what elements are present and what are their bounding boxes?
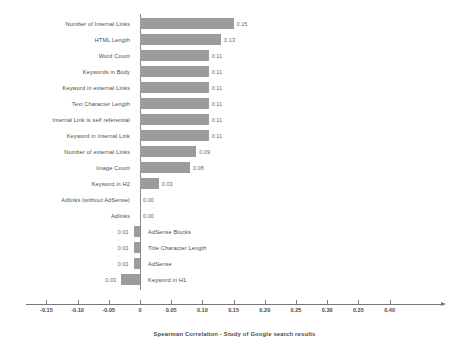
axis-tick-label: 0 <box>138 307 141 313</box>
bar-value-label: 0.03 <box>162 176 173 192</box>
bar-row: Keywords in Body0.11 <box>0 64 469 80</box>
bar <box>140 82 209 93</box>
bar <box>140 98 209 109</box>
bar-row: Keyword in H20.03 <box>0 176 469 192</box>
bar-value-label: 0.08 <box>193 160 204 176</box>
axis-tick-label: 0.30 <box>322 307 333 313</box>
category-label: Number of Internal Links <box>0 16 134 32</box>
bar <box>140 178 159 189</box>
bar-value-label: 0.13 <box>224 32 235 48</box>
x-axis-caption: Spearman Correlation - Study of Google s… <box>0 331 469 337</box>
bar-row: AdSense0.01 <box>0 256 469 272</box>
bar-row: Keyword in external Links0.11 <box>0 80 469 96</box>
bar <box>134 258 140 269</box>
axis-tick-label: -0.15 <box>40 307 53 313</box>
bar-row: Number of Internal Links0.15 <box>0 16 469 32</box>
bar-row: Text Character Length0.11 <box>0 96 469 112</box>
category-label: Adlinks <box>0 208 134 224</box>
axis-tick-label: 0.10 <box>197 307 208 313</box>
bar-value-label: 0.11 <box>212 128 222 144</box>
category-label: AdSense Blocks <box>144 224 284 240</box>
bar-row: Keyword in H10.03 <box>0 272 469 288</box>
bar-value-label: 0.01 <box>118 240 129 256</box>
axis-tick <box>46 300 47 305</box>
axis-tick-label: 0.20 <box>259 307 270 313</box>
category-label: Keyword in H2 <box>0 176 134 192</box>
category-label: Number of external Links <box>0 144 134 160</box>
bar <box>134 242 140 253</box>
bar <box>140 130 209 141</box>
axis-tick <box>78 300 79 305</box>
bar-row: Image Count0.08 <box>0 160 469 176</box>
category-label: Keyword in Internal Link <box>0 128 134 144</box>
spearman-correlation-bar-chart: Number of Internal Links0.15HTML Length0… <box>0 0 469 348</box>
bar-value-label: 0.00 <box>143 192 154 208</box>
bar-value-label: 0.01 <box>118 256 129 272</box>
axis-tick <box>234 300 235 305</box>
bar-row: Adlinks0.00 <box>0 208 469 224</box>
x-axis: -0.15-0.10-0.0500.050.100.150.200.250.30… <box>0 298 469 328</box>
axis-tick <box>327 300 328 305</box>
bar <box>140 162 190 173</box>
axis-tick-label: -0.10 <box>71 307 84 313</box>
bar-row: HTML Length0.13 <box>0 32 469 48</box>
axis-tick <box>109 300 110 305</box>
bar-row: Internal Link is self referential0.11 <box>0 112 469 128</box>
bar-value-label: 0.03 <box>105 272 116 288</box>
bar <box>121 274 140 285</box>
bar <box>140 146 196 157</box>
axis-tick-label: 0.40 <box>384 307 395 313</box>
bar-value-label: 0.09 <box>199 144 210 160</box>
category-label: AdSense <box>144 256 284 272</box>
axis-tick <box>171 300 172 305</box>
axis-tick <box>358 300 359 305</box>
axis-tick-label: 0.05 <box>166 307 177 313</box>
category-label: Internal Link is self referential <box>0 112 134 128</box>
category-label: HTML Length <box>0 32 134 48</box>
category-label: Word Count <box>0 48 134 64</box>
axis-tick-label: 0.25 <box>291 307 302 313</box>
category-label: Image Count <box>0 160 134 176</box>
bar-value-label: 0.11 <box>212 64 222 80</box>
category-label: Keyword in H1 <box>144 272 284 288</box>
x-axis-arrow-icon <box>441 302 446 306</box>
bar-value-label: 0.01 <box>118 224 129 240</box>
bar <box>134 226 140 237</box>
bar <box>140 34 221 45</box>
bar <box>140 114 209 125</box>
axis-tick <box>390 300 391 305</box>
bar-value-label: 0.11 <box>212 80 222 96</box>
bar-row: AdSense Blocks0.01 <box>0 224 469 240</box>
category-label: Adlinks (without AdSense) <box>0 192 134 208</box>
plot-area: Number of Internal Links0.15HTML Length0… <box>0 14 469 290</box>
bar-value-label: 0.11 <box>212 96 222 112</box>
bar-value-label: 0.15 <box>237 16 248 32</box>
axis-tick <box>140 300 141 305</box>
bar-value-label: 0.00 <box>143 208 154 224</box>
bar <box>140 18 234 29</box>
bar-value-label: 0.11 <box>212 112 222 128</box>
category-label: Keyword in external Links <box>0 80 134 96</box>
axis-tick-label: -0.05 <box>102 307 115 313</box>
axis-tick <box>296 300 297 305</box>
bar-row: Word Count0.11 <box>0 48 469 64</box>
category-label: Title Character Length <box>144 240 284 256</box>
axis-tick-label: 0.15 <box>228 307 239 313</box>
axis-tick <box>202 300 203 305</box>
bar-row: Title Character Length0.01 <box>0 240 469 256</box>
bar-row: Keyword in Internal Link0.11 <box>0 128 469 144</box>
bar <box>140 66 209 77</box>
axis-tick-label: 0.35 <box>353 307 364 313</box>
bar <box>140 50 209 61</box>
category-label: Keywords in Body <box>0 64 134 80</box>
axis-tick <box>265 300 266 305</box>
bar-row: Adlinks (without AdSense)0.00 <box>0 192 469 208</box>
bar-value-label: 0.11 <box>212 48 222 64</box>
category-label: Text Character Length <box>0 96 134 112</box>
bar-row: Number of external Links0.09 <box>0 144 469 160</box>
